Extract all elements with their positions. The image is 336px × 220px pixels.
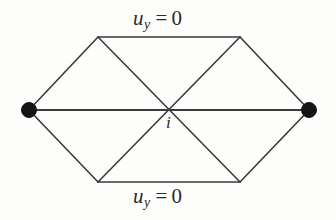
edge-bottomleft-to-left bbox=[29, 110, 98, 182]
top-bc-variable: u bbox=[133, 6, 144, 30]
top-boundary-condition-label: uy=0 bbox=[133, 8, 182, 32]
edge-topright-to-right bbox=[240, 37, 309, 110]
top-bc-subscript: y bbox=[144, 17, 150, 32]
bottom-boundary-condition-label: uy=0 bbox=[133, 186, 182, 210]
edge-left-to-topleft bbox=[29, 37, 98, 110]
center-node-label: i bbox=[166, 114, 171, 131]
mesh-figure: uy=0 uy=0 i bbox=[0, 0, 336, 220]
bottom-bc-variable: u bbox=[133, 184, 144, 208]
right-boundary-node bbox=[302, 103, 317, 118]
left-boundary-node bbox=[22, 103, 37, 118]
top-bc-relation: = bbox=[155, 6, 167, 30]
top-bc-value: 0 bbox=[172, 6, 183, 30]
bottom-bc-value: 0 bbox=[172, 184, 183, 208]
bottom-bc-relation: = bbox=[155, 184, 167, 208]
bottom-bc-subscript: y bbox=[144, 195, 150, 210]
edge-right-to-bottomright bbox=[240, 110, 309, 182]
